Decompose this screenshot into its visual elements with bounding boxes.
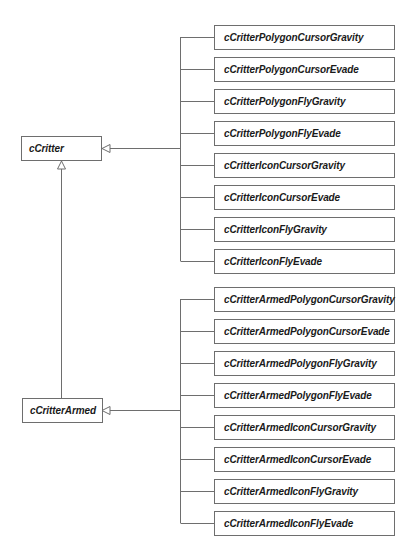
class-name: cCritterArmedIconFlyEvade [224, 518, 353, 529]
class-box-polygon-cursor-evade: cCritterPolygonCursorEvade [214, 57, 395, 82]
class-box-armed-polygon-cursor-evade: cCritterArmedPolygonCursorEvade [214, 319, 395, 344]
class-name: cCritterIconCursorEvade [224, 192, 340, 203]
generalization-arrow-icon [102, 407, 110, 415]
class-box-icon-cursor-evade: cCritterIconCursorEvade [214, 185, 395, 210]
class-name: cCritterIconFlyGravity [224, 224, 327, 235]
class-box-ccritter: cCritter [21, 136, 102, 161]
class-box-armed-polygon-fly-evade: cCritterArmedPolygonFlyEvade [214, 383, 395, 408]
class-box-polygon-fly-evade: cCritterPolygonFlyEvade [214, 121, 395, 146]
class-box-armed-icon-cursor-evade: cCritterArmedIconCursorEvade [214, 447, 395, 472]
class-name: cCritterIconCursorGravity [224, 160, 345, 171]
class-box-armed-polygon-cursor-gravity: cCritterArmedPolygonCursorGravity [214, 287, 395, 312]
class-box-polygon-cursor-gravity: cCritterPolygonCursorGravity [214, 25, 395, 50]
class-name: cCritterPolygonCursorGravity [224, 32, 363, 43]
class-box-ccritterarmed: cCritterArmed [22, 398, 103, 423]
class-box-armed-polygon-fly-gravity: cCritterArmedPolygonFlyGravity [214, 351, 395, 376]
class-box-icon-fly-gravity: cCritterIconFlyGravity [214, 217, 395, 242]
class-name: cCritterArmedPolygonCursorEvade [224, 326, 390, 337]
class-name: cCritterPolygonFlyEvade [224, 128, 341, 139]
class-box-armed-icon-fly-gravity: cCritterArmedIconFlyGravity [214, 479, 395, 504]
class-name: cCritterArmedPolygonCursorGravity [224, 294, 395, 305]
class-name: cCritterArmedPolygonFlyGravity [224, 358, 377, 369]
class-box-icon-fly-evade: cCritterIconFlyEvade [214, 249, 395, 274]
class-box-polygon-fly-gravity: cCritterPolygonFlyGravity [214, 89, 395, 114]
class-name: cCritterPolygonCursorEvade [224, 64, 359, 75]
class-box-armed-icon-fly-evade: cCritterArmedIconFlyEvade [214, 511, 395, 536]
class-name: cCritterPolygonFlyGravity [224, 96, 345, 107]
class-name: cCritterArmedIconCursorGravity [224, 422, 376, 433]
class-name: cCritterIconFlyEvade [224, 256, 322, 267]
class-name: cCritterArmed [30, 405, 96, 416]
generalization-arrow-icon [58, 161, 66, 169]
class-box-armed-icon-cursor-gravity: cCritterArmedIconCursorGravity [214, 415, 395, 440]
class-name: cCritterArmedPolygonFlyEvade [224, 390, 372, 401]
class-name: cCritter [29, 143, 64, 154]
generalization-arrow-icon [102, 145, 110, 153]
class-box-icon-cursor-gravity: cCritterIconCursorGravity [214, 153, 395, 178]
class-diagram: cCritter cCritterArmed cCritterPolygonCu… [0, 0, 417, 549]
class-name: cCritterArmedIconCursorEvade [224, 454, 371, 465]
class-name: cCritterArmedIconFlyGravity [224, 486, 358, 497]
